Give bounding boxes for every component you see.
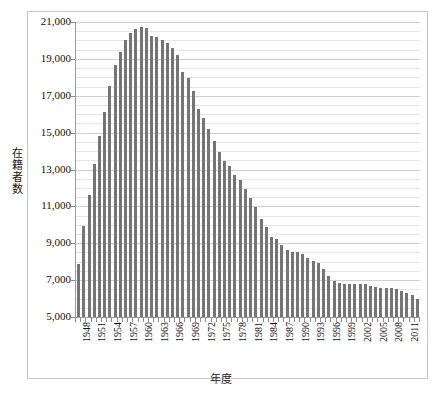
x-axis-tick-label: 1954 xyxy=(113,322,123,342)
gridline-major xyxy=(76,243,420,244)
x-axis-tick-label: 1951 xyxy=(97,322,107,342)
bar xyxy=(379,288,382,318)
bar xyxy=(385,288,388,317)
bar xyxy=(405,293,408,317)
gridline-major xyxy=(76,133,420,134)
gridline-minor xyxy=(76,31,420,32)
bar-chart: 在 籍 者 数 21,00019,00017,00015,00013,00011… xyxy=(0,0,441,394)
x-axis-tick-label: 1984 xyxy=(269,322,279,342)
gridline-major xyxy=(76,59,420,60)
y-axis-tick-label: 11,000 xyxy=(7,199,71,211)
y-axis-tick-label: 13,000 xyxy=(7,163,71,175)
bar xyxy=(82,226,85,317)
gridline-minor xyxy=(76,105,420,106)
x-axis-tick-label: 1948 xyxy=(82,322,92,342)
bar xyxy=(93,164,96,317)
bar xyxy=(270,237,273,317)
bar xyxy=(134,29,137,317)
bar xyxy=(103,112,106,317)
x-axis-tick-label: 2011 xyxy=(410,322,420,342)
bar xyxy=(280,245,283,317)
bar xyxy=(353,284,356,317)
bar xyxy=(364,284,367,317)
gridline-minor xyxy=(76,262,420,263)
x-axis-tick-label: 1957 xyxy=(129,322,139,342)
y-axis-tick-labels: 21,00019,00017,00015,00013,00011,0009,00… xyxy=(3,22,71,317)
bar xyxy=(88,195,91,317)
bar xyxy=(197,109,200,317)
bar xyxy=(306,258,309,317)
x-axis-tick-label: 1990 xyxy=(301,322,311,342)
bar xyxy=(218,152,221,317)
gridline-major xyxy=(76,22,420,23)
bar xyxy=(228,166,231,317)
gridline-minor xyxy=(76,252,420,253)
y-axis-tick-label: 19,000 xyxy=(7,52,71,64)
gridline-major xyxy=(76,170,420,171)
bar xyxy=(233,175,236,317)
bar xyxy=(322,269,325,317)
bar xyxy=(176,55,179,317)
x-axis-tick-label: 1975 xyxy=(222,322,232,342)
bar xyxy=(400,291,403,317)
bar xyxy=(181,72,184,317)
x-axis-tick-label: 1993 xyxy=(316,322,326,342)
bar xyxy=(155,37,158,317)
bar xyxy=(291,252,294,317)
y-axis-tick-label: 5,000 xyxy=(7,310,71,322)
bar xyxy=(140,27,143,317)
bar xyxy=(213,141,216,317)
bar xyxy=(265,227,268,317)
gridline-minor xyxy=(76,87,420,88)
bar xyxy=(338,283,341,317)
gridline-major xyxy=(76,96,420,97)
gridline-minor xyxy=(76,234,420,235)
bar xyxy=(416,299,419,317)
bar xyxy=(150,36,153,317)
bar xyxy=(327,276,330,317)
gridline-minor xyxy=(76,271,420,272)
bar xyxy=(359,284,362,317)
x-axis-tick-label: 1966 xyxy=(175,322,185,342)
gridline-minor xyxy=(76,160,420,161)
bar xyxy=(390,288,393,317)
bar xyxy=(249,198,252,317)
bar xyxy=(119,52,122,318)
bar xyxy=(244,189,247,317)
y-axis-tick-label: 7,000 xyxy=(7,273,71,285)
bar xyxy=(333,281,336,317)
bar xyxy=(374,287,377,317)
bar xyxy=(254,207,257,317)
y-axis-tick-label: 15,000 xyxy=(7,126,71,138)
gridline-minor xyxy=(76,50,420,51)
x-axis-tick-label: 1963 xyxy=(160,322,170,342)
gridline-minor xyxy=(76,68,420,69)
gridline-minor xyxy=(76,40,420,41)
gridline-minor xyxy=(76,188,420,189)
gridline-minor xyxy=(76,151,420,152)
gridline-minor xyxy=(76,77,420,78)
bar xyxy=(145,28,148,317)
plot-area xyxy=(75,22,419,317)
bar xyxy=(223,161,226,317)
bar xyxy=(296,252,299,317)
bar xyxy=(317,263,320,317)
bar xyxy=(98,136,101,317)
x-axis-tick-label: 1981 xyxy=(254,322,264,342)
bar xyxy=(369,286,372,317)
bar xyxy=(129,33,132,317)
gridline-minor xyxy=(76,216,420,217)
y-axis-tick-label: 21,000 xyxy=(7,15,71,27)
bar xyxy=(395,289,398,317)
bar xyxy=(275,239,278,317)
x-axis-title: 年度 xyxy=(0,370,441,386)
gridline-minor xyxy=(76,225,420,226)
bar xyxy=(343,284,346,317)
x-axis-tick-label: 1978 xyxy=(238,322,248,342)
y-axis-tick-label: 17,000 xyxy=(7,89,71,101)
bar xyxy=(187,78,190,317)
gridline-minor xyxy=(76,179,420,180)
x-axis-tick-label: 1996 xyxy=(332,322,342,342)
bar xyxy=(260,219,263,317)
bar xyxy=(348,284,351,317)
